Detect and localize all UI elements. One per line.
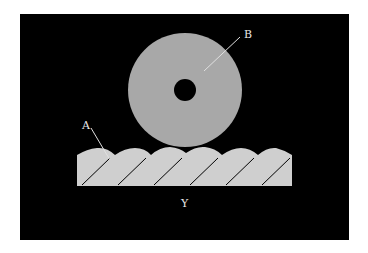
label-b: B — [244, 28, 252, 41]
label-a: A — [81, 119, 91, 132]
diagram: A B Y — [0, 0, 368, 253]
wheel-hole — [174, 79, 196, 101]
label-y: Y — [180, 197, 189, 210]
